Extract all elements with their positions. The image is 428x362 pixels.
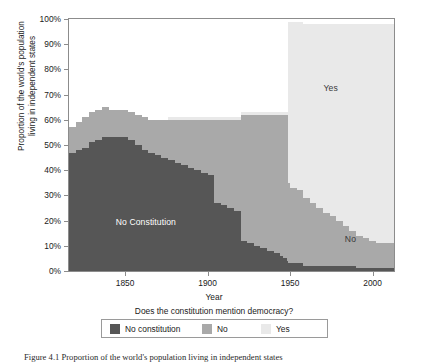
legend-swatch-icon xyxy=(261,324,271,334)
x-tick-mark xyxy=(125,272,126,276)
x-tick-mark xyxy=(208,272,209,276)
legend-box: No constitutionNoYes xyxy=(101,319,328,338)
legend-item[interactable]: No xyxy=(202,324,228,334)
legend-swatch-icon xyxy=(110,324,120,334)
x-tick-label: 1950 xyxy=(281,278,300,288)
x-tick-label: 1850 xyxy=(116,278,135,288)
legend-swatch-icon xyxy=(202,324,212,334)
figure-caption: Figure 4.1 Proportion of the world's pop… xyxy=(24,352,424,362)
legend-title: Does the constitution mention democracy? xyxy=(0,306,428,316)
legend-item-label: Yes xyxy=(276,324,290,334)
x-axis-title: Year xyxy=(0,292,428,302)
legend-item[interactable]: Yes xyxy=(261,324,290,334)
legend-item-label: No xyxy=(217,324,228,334)
x-tick-label: 2000 xyxy=(363,278,382,288)
x-tick-mark xyxy=(290,272,291,276)
x-tick-mark xyxy=(373,272,374,276)
legend-item[interactable]: No constitution xyxy=(110,324,180,334)
x-tick-label: 1900 xyxy=(198,278,217,288)
legend-item-label: No constitution xyxy=(125,324,180,334)
